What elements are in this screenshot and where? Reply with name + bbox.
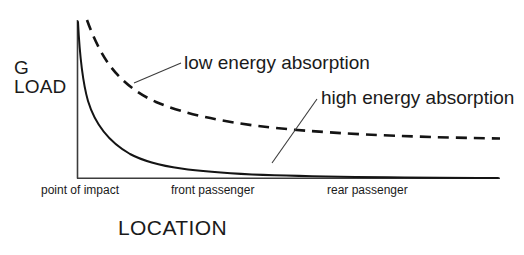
low-energy-absorption-curve — [87, 20, 500, 139]
low-energy-leader-line — [134, 63, 181, 83]
high-energy-absorption-label: high energy absorption — [321, 88, 514, 107]
y-axis-title: G LOAD — [14, 58, 67, 96]
x-axis-title: LOCATION — [118, 217, 227, 238]
x-tick-label-front-passenger: front passenger — [171, 184, 254, 196]
x-tick-label-rear-passenger: rear passenger — [327, 184, 408, 196]
chart-plot-area — [0, 0, 524, 255]
y-axis-title-line-1: G — [14, 58, 67, 77]
high-energy-leader-line — [272, 99, 317, 163]
x-tick-label-point-of-impact: point of impact — [41, 184, 119, 196]
y-axis-title-line-2: LOAD — [14, 77, 67, 96]
g-load-vs-location-chart: G LOAD low energy absorption high energy… — [0, 0, 524, 255]
low-energy-absorption-label: low energy absorption — [184, 53, 370, 72]
